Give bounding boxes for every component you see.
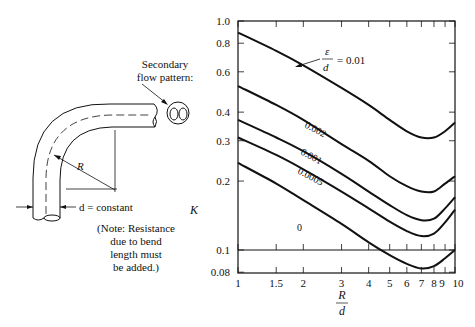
y-tick-label: 0.6 <box>216 66 230 78</box>
diameter-label: d = constant <box>79 201 133 214</box>
curve-0.001 <box>238 120 455 221</box>
x-tick-label: 2 <box>301 277 307 289</box>
chart: 1.00.80.60.40.30.20.10.08 11.52345678910… <box>189 15 464 318</box>
x-tick-label: 8 <box>431 277 437 289</box>
secondary-flow-label: Secondary flow pattern: <box>125 58 205 84</box>
curve-0.0005 <box>238 137 455 236</box>
x-tick-label: 7 <box>419 277 425 289</box>
curve-label-0.001: 0.001 <box>299 146 324 166</box>
y-tick-label: 0.2 <box>216 175 230 187</box>
x-tick-label: 6 <box>404 277 410 289</box>
x-tick-label: 5 <box>387 277 393 289</box>
y-tick-labels: 1.00.80.60.40.30.20.10.08 <box>211 15 231 278</box>
y-axis-title: K <box>189 203 199 217</box>
x-tick-label: 4 <box>366 277 372 289</box>
radius-label: R <box>77 160 84 173</box>
x-tick-label: 10 <box>453 277 465 289</box>
y-tick-label: 0.3 <box>216 135 230 147</box>
curve-0.01 <box>238 33 455 139</box>
y-tick-label: 0.08 <box>211 266 231 278</box>
y-tick-label: 0.4 <box>216 106 230 118</box>
x-axis-title-denominator: d <box>339 304 346 318</box>
y-tick-label: 0.1 <box>216 244 230 256</box>
curve-0 <box>238 163 455 269</box>
epsilon-label: ε <box>325 45 330 57</box>
curve-label-0.01: = 0.01 <box>337 54 365 66</box>
curve-label-0: 0 <box>297 222 302 233</box>
curve-label-0.002: 0.002 <box>303 119 328 139</box>
x-tick-labels: 11.52345678910 <box>235 277 464 289</box>
curve-label-0.0005: 0.0005 <box>296 165 325 188</box>
y-tick-label: 0.8 <box>216 37 230 49</box>
svg-text:d: d <box>323 61 329 73</box>
x-tick-label: 1 <box>235 277 241 289</box>
curves <box>238 33 455 269</box>
bend-note: (Note: Resistance due to bend length mus… <box>88 222 184 274</box>
x-axis-title-numerator: R <box>337 288 346 302</box>
y-tick-label: 1.0 <box>216 15 230 27</box>
x-tick-label: 9 <box>439 277 445 289</box>
figure-canvas: 1.00.80.60.40.30.20.10.08 11.52345678910… <box>0 0 475 327</box>
x-tick-label: 1.5 <box>269 277 283 289</box>
